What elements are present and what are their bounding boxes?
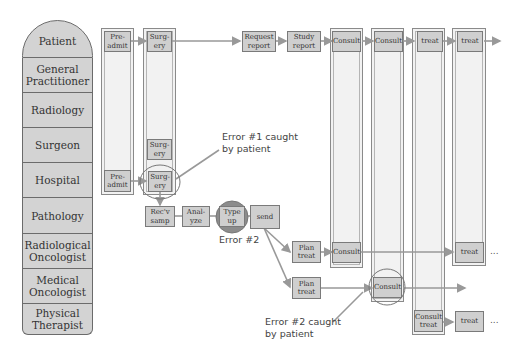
step-analyze: Anal- yze — [182, 206, 210, 227]
connectors — [0, 0, 521, 355]
step-medonc-consult: Consult — [373, 277, 402, 298]
step-treat-1: treat — [417, 31, 443, 52]
error1-caught-label: Error #1 caught by patient — [222, 131, 298, 155]
step-recv-samp: Rec'v samp — [145, 206, 175, 227]
continuation-radonc: ... — [490, 246, 499, 256]
step-request-report: Request report — [242, 31, 276, 52]
step-type-up: Type up — [219, 206, 245, 227]
step-radonc-plan-treat: Plan treat — [292, 241, 321, 263]
step-surgeon-surgery: Surg- ery — [147, 139, 172, 160]
step-patient-surgery: Surg- ery — [147, 31, 172, 52]
error2-caught-label: Error #2 caught by patient — [265, 316, 341, 340]
error2-label: Error #2 — [219, 234, 259, 246]
step-hospital-preadmit: Pre- admit — [104, 170, 131, 192]
step-medonc-plan-treat: Plan treat — [292, 277, 321, 299]
step-consult-2: Consult — [374, 31, 403, 52]
step-treat-2: treat — [457, 31, 483, 52]
step-patient-preadmit: Pre- admit — [104, 31, 131, 52]
step-radonc-consult: Consult — [332, 242, 361, 263]
step-study-report: Study report — [287, 31, 321, 52]
step-pt-treat: treat — [455, 311, 484, 332]
step-send: send — [250, 205, 280, 229]
step-pt-consult-treat: Consult treat — [414, 310, 443, 332]
step-radonc-treat: treat — [455, 242, 484, 263]
step-hospital-surgery: Surg- ery — [148, 171, 172, 192]
step-consult-1: Consult — [332, 31, 361, 52]
continuation-pt: ... — [490, 315, 499, 325]
